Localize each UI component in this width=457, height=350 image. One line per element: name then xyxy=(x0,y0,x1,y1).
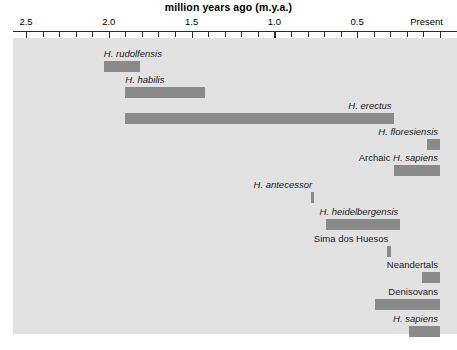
species-label: Archaic H. sapiens xyxy=(13,152,438,163)
axis-tick xyxy=(175,32,176,37)
axis-tick xyxy=(43,32,44,37)
species-range-row: H. rudolfensis xyxy=(13,48,457,73)
species-label: H. rudolfensis xyxy=(104,48,162,59)
axis-tick-label-layer: 2.52.01.51.00.5Present xyxy=(0,16,457,30)
axis-tick xyxy=(258,32,259,37)
species-range-row: Archaic H. sapiens xyxy=(13,152,457,177)
species-range-bar xyxy=(422,272,440,283)
species-label: Sima dos Huesos xyxy=(13,233,388,244)
axis-tick xyxy=(407,32,408,37)
species-label: Neandertals xyxy=(13,259,438,270)
plot-area: H. rudolfensisH. habilisH. erectusH. flo… xyxy=(13,38,457,334)
species-range-row: H. sapiens xyxy=(13,313,457,338)
species-range-row: Neandertals xyxy=(13,259,457,284)
axis-tick-label: 0.5 xyxy=(351,16,364,27)
axis-tick xyxy=(390,32,391,37)
species-range-row: Sima dos Huesos xyxy=(13,233,457,258)
axis-tick xyxy=(225,32,226,37)
axis-tick xyxy=(241,32,242,37)
axis-tick xyxy=(374,32,375,37)
axis-tick-label: 1.0 xyxy=(268,16,281,27)
species-range-bar xyxy=(104,61,140,72)
axis-tick xyxy=(142,32,143,37)
species-range-bar xyxy=(427,139,440,150)
species-range-bar xyxy=(394,165,440,176)
axis-tick-label: 2.5 xyxy=(19,16,32,27)
axis-tick xyxy=(158,32,159,37)
chart-axis-title: million years ago (m.y.a.) xyxy=(0,1,457,13)
species-range-bar xyxy=(409,326,440,337)
axis-tick xyxy=(291,32,292,37)
species-range-bar xyxy=(326,219,401,230)
species-range-row: Denisovans xyxy=(13,286,457,311)
species-range-bar xyxy=(387,246,391,257)
species-range-row: H. antecessor xyxy=(13,179,457,204)
species-label: H. habilis xyxy=(125,74,164,85)
species-range-bar xyxy=(125,87,204,98)
axis-tick xyxy=(92,32,93,37)
species-range-bar xyxy=(311,192,315,203)
species-range-row: H. heidelbergensis xyxy=(13,206,457,231)
axis-tick xyxy=(308,32,309,37)
axis-tick xyxy=(423,32,424,37)
axis-tick-label: 2.0 xyxy=(102,16,115,27)
species-label: H. heidelbergensis xyxy=(13,206,398,217)
axis-tick xyxy=(125,32,126,37)
axis-tick xyxy=(59,32,60,37)
species-range-bar xyxy=(125,113,393,124)
species-label: H. sapiens xyxy=(13,313,438,324)
axis-tick xyxy=(76,32,77,37)
species-range-row: H. habilis xyxy=(13,74,457,99)
axis-tick xyxy=(324,32,325,37)
species-label: H. floresiensis xyxy=(13,126,438,137)
axis-tick-label: Present xyxy=(410,16,443,27)
hominin-timeline-chart: million years ago (m.y.a.) 2.52.01.51.00… xyxy=(0,0,457,350)
axis-tick xyxy=(341,32,342,37)
species-range-bar xyxy=(375,299,440,310)
species-range-row: H. erectus xyxy=(13,100,457,125)
species-label: H. erectus xyxy=(13,100,392,111)
species-label: Denisovans xyxy=(13,286,438,297)
species-range-row: H. floresiensis xyxy=(13,126,457,151)
axis-tick xyxy=(208,32,209,37)
axis-tick-label: 1.5 xyxy=(185,16,198,27)
species-label: H. antecessor xyxy=(13,179,312,190)
